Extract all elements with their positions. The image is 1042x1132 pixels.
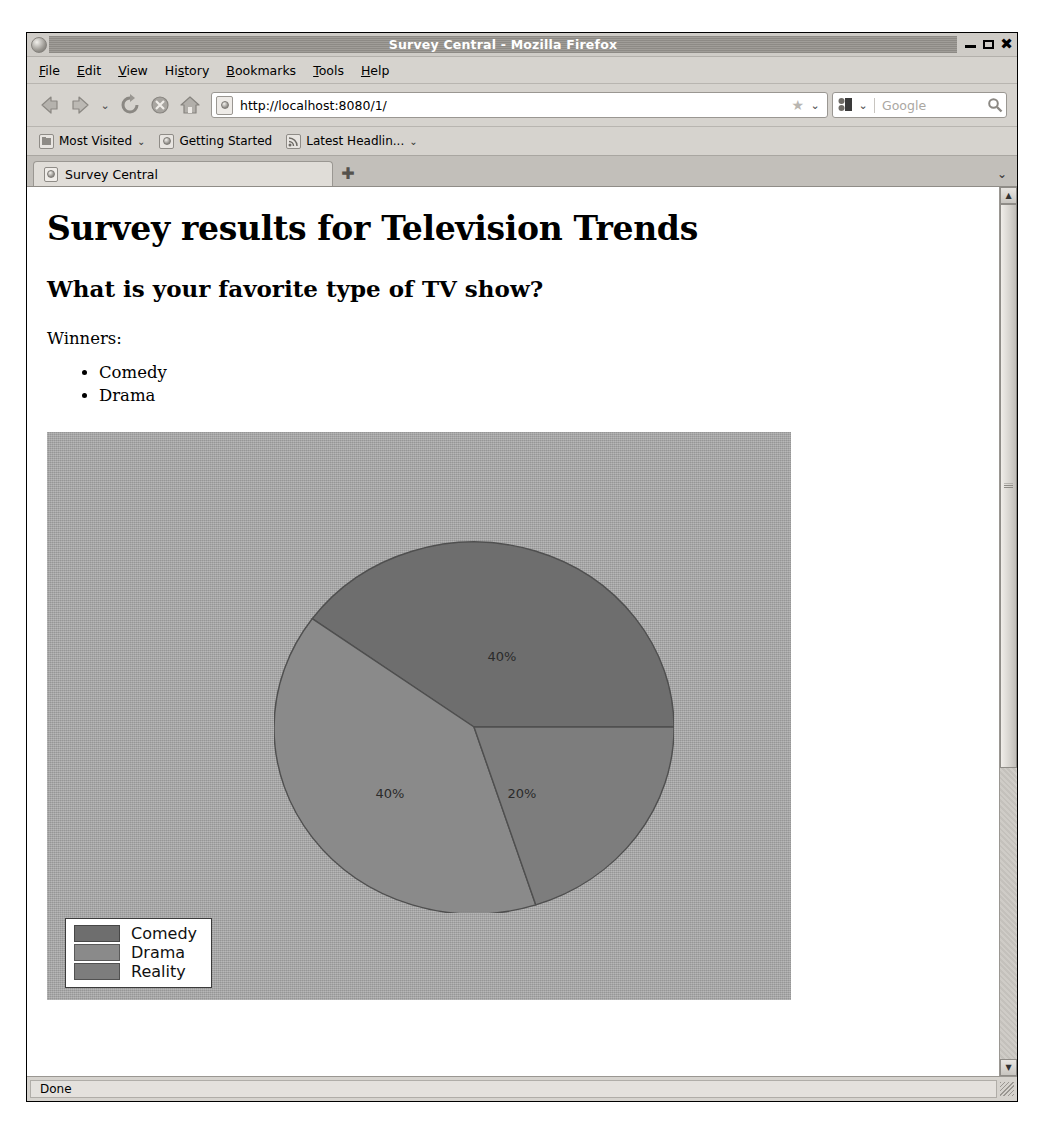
window-controls: ✖ [959,38,1013,51]
bookmark-star-icon[interactable]: ★ [791,97,807,113]
menu-item-help[interactable]: Help [361,63,390,78]
pie-label-comedy: 40% [488,648,517,663]
url-bar[interactable]: http://localhost:8080/1/ ★ ⌄ [211,92,828,118]
scrollbar-grip [1004,484,1013,489]
close-button[interactable]: ✖ [1000,38,1013,51]
bookmark-label: Getting Started [179,134,272,148]
menu-item-tools[interactable]: Tools [313,63,344,78]
navigation-toolbar: ⌄ http://loca [27,84,1017,127]
scrollbar-track[interactable] [1000,204,1017,1059]
pie-chart-image: 40% 40% 20% Comedy Drama [47,432,791,1000]
back-icon[interactable] [37,92,63,118]
page-favicon-icon [216,96,233,115]
page-title: Survey results for Television Trends [47,209,999,248]
winners-label: Winners: [47,329,999,348]
bookmark-latest-headlines[interactable]: Latest Headlin... ⌄ [286,134,417,149]
pie-label-drama: 40% [376,786,405,801]
pie-svg [274,541,674,913]
scroll-up-button[interactable]: ▲ [1000,187,1017,204]
browser-window: Survey Central - Mozilla Firefox ✖ File … [26,32,1018,1102]
status-text: Done [30,1080,997,1098]
window-title: Survey Central - Mozilla Firefox [389,37,617,52]
title-bar-strip: Survey Central - Mozilla Firefox [49,36,957,53]
legend-label: Comedy [131,925,197,943]
menu-item-view[interactable]: View [118,63,148,78]
list-item: Comedy [99,362,999,384]
chart-legend: Comedy Drama Reality [65,918,212,988]
menu-item-edit[interactable]: Edit [77,63,101,78]
forward-icon[interactable] [67,92,93,118]
search-input[interactable]: Google [874,98,984,113]
survey-question: What is your favorite type of TV show? [47,275,999,302]
vertical-scrollbar[interactable]: ▲ ▼ [999,187,1017,1076]
search-bar[interactable]: ⌄ Google [832,92,1007,118]
reload-icon[interactable] [117,92,143,118]
home-icon[interactable] [177,92,203,118]
tab-label: Survey Central [65,167,158,182]
menu-item-bookmarks[interactable]: Bookmarks [226,63,296,78]
firefox-icon [31,37,47,53]
legend-swatch [74,925,120,942]
pie-label-reality: 20% [508,786,537,801]
legend-label: Reality [131,963,186,981]
title-bar: Survey Central - Mozilla Firefox ✖ [27,33,1017,57]
content-viewport: Survey results for Television Trends Wha… [27,186,1017,1076]
bookmark-getting-started[interactable]: Getting Started [159,134,272,149]
tab-bar: Survey Central ✚ ⌄ [27,156,1017,186]
rss-icon [286,134,301,149]
scrollbar-thumb[interactable] [1000,204,1017,768]
resize-grip-icon[interactable] [1000,1082,1014,1096]
stop-icon[interactable] [147,92,173,118]
url-dropdown-icon[interactable]: ⌄ [807,100,823,111]
bookmarks-toolbar: Most Visited ⌄ Getting Started Latest He… [27,127,1017,156]
new-tab-button[interactable]: ✚ [333,161,363,186]
legend-label: Drama [131,944,185,962]
page-icon [44,167,58,182]
chevron-down-icon[interactable]: ⌄ [137,136,145,147]
page-content: Survey results for Television Trends Wha… [27,187,999,1076]
list-item: Drama [99,385,999,407]
screenshot-root: Survey Central - Mozilla Firefox ✖ File … [0,0,1042,1132]
scroll-down-button[interactable]: ▼ [1000,1059,1017,1076]
tab-list-dropdown-icon[interactable]: ⌄ [997,167,1007,181]
menu-item-file[interactable]: File [39,63,60,78]
legend-item-reality: Reality [74,963,197,981]
search-engine-dropdown-icon[interactable]: ⌄ [855,100,871,111]
history-dropdown-icon[interactable]: ⌄ [97,100,113,111]
minimize-button[interactable] [964,38,977,51]
url-input[interactable]: http://localhost:8080/1/ [233,98,791,113]
menu-bar: File Edit View History Bookmarks Tools H… [27,57,1017,84]
legend-item-drama: Drama [74,944,197,962]
winners-list: Comedy Drama [47,362,999,407]
google-search-engine-icon[interactable] [836,96,855,114]
legend-swatch [74,963,120,980]
folder-icon [39,134,54,149]
status-bar: Done [27,1076,1017,1101]
legend-item-comedy: Comedy [74,925,197,943]
bookmark-most-visited[interactable]: Most Visited ⌄ [39,134,145,149]
pie-chart: 40% 40% 20% [274,541,674,913]
search-magnifier-icon[interactable] [984,97,1006,113]
bookmark-label: Most Visited [59,134,132,148]
chevron-down-icon[interactable]: ⌄ [409,136,417,147]
menu-item-history[interactable]: History [165,63,209,78]
maximize-button[interactable] [982,38,995,51]
page-icon [159,134,174,149]
bookmark-label: Latest Headlin... [306,134,404,148]
legend-swatch [74,944,120,961]
tab-survey-central[interactable]: Survey Central [33,161,333,186]
